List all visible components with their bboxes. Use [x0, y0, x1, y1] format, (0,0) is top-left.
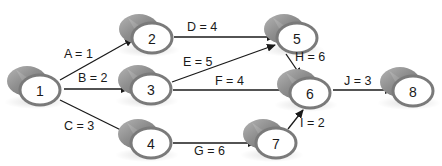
node-8: 8 [377, 67, 441, 110]
node-label-5: 5 [293, 31, 301, 47]
node-7: 7 [240, 119, 304, 162]
node-label-1: 1 [36, 83, 44, 99]
edge-label-j: J = 3 [344, 74, 371, 88]
node-label-7: 7 [272, 136, 280, 152]
edge-label-b: B = 2 [78, 71, 108, 85]
node-label-2: 2 [148, 31, 156, 47]
edge-label-e: E = 5 [183, 55, 213, 69]
node-2: 2 [116, 14, 180, 57]
edge-label-h: H = 6 [295, 50, 325, 64]
edge-label-g: G = 6 [194, 144, 225, 158]
node-6: 6 [274, 69, 338, 112]
edge-label-c: C = 3 [64, 119, 94, 133]
project-network-diagram: 12345678 A = 1B = 2C = 3D = 4E = 5F = 4G… [0, 0, 442, 166]
node-label-6: 6 [306, 86, 314, 102]
nodes-layer: 12345678 [4, 14, 441, 162]
node-1: 1 [4, 66, 68, 109]
node-3: 3 [115, 65, 179, 108]
edge-label-d: D = 4 [187, 20, 217, 34]
edge-label-a: A = 1 [64, 47, 93, 61]
node-4: 4 [115, 119, 179, 162]
node-label-8: 8 [409, 84, 417, 100]
edge-label-f: F = 4 [215, 74, 244, 88]
node-label-4: 4 [147, 136, 155, 152]
edges-layer [60, 37, 393, 143]
edge-label-i: I = 2 [300, 116, 325, 130]
node-label-3: 3 [147, 82, 155, 98]
